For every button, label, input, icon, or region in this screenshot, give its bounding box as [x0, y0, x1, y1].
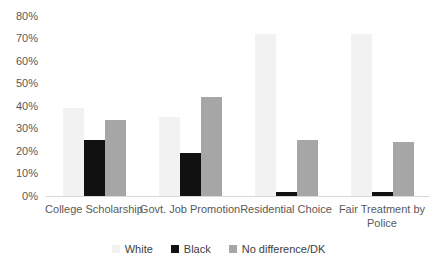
legend-item: White — [112, 243, 153, 255]
y-axis-tick-label: 20% — [0, 145, 38, 158]
legend-item: Black — [171, 243, 211, 255]
legend-label: Black — [184, 243, 211, 255]
legend-item: No difference/DK — [229, 243, 326, 255]
y-axis-tick-label: 80% — [0, 10, 38, 23]
y-axis-tick-label: 0% — [0, 190, 38, 203]
bar-group — [334, 16, 430, 196]
bar-black — [84, 140, 105, 196]
bar-group — [238, 16, 334, 196]
legend-label: White — [125, 243, 153, 255]
bar-group — [142, 16, 238, 196]
y-axis-tick-label: 70% — [0, 32, 38, 45]
y-axis-tick-label: 10% — [0, 167, 38, 180]
bar-no-difference-dk — [393, 142, 414, 196]
bar-white — [255, 34, 276, 196]
bar-no-difference-dk — [105, 120, 126, 197]
bar-no-difference-dk — [297, 140, 318, 196]
bar-black — [180, 153, 201, 196]
bar-black — [372, 192, 393, 197]
bar-white — [63, 108, 84, 196]
x-axis-category-label: Fair Treatment by Police — [330, 202, 434, 230]
plot-area — [46, 16, 430, 196]
bar-white — [159, 117, 180, 196]
x-axis-category-label: Residential Choice — [234, 202, 338, 216]
y-axis-tick-label: 50% — [0, 77, 38, 90]
legend-label: No difference/DK — [242, 243, 326, 255]
y-axis-tick-label: 40% — [0, 100, 38, 113]
chart-legend: WhiteBlackNo difference/DK — [0, 243, 437, 255]
x-axis-category-label: Govt. Job Promotion — [138, 202, 242, 216]
bar-no-difference-dk — [201, 97, 222, 196]
bar-white — [351, 34, 372, 196]
y-axis-tick-label: 60% — [0, 55, 38, 68]
x-axis-line — [46, 196, 430, 197]
bar-group — [46, 16, 142, 196]
bar-chart: 0%10%20%30%40%50%60%70%80% College Schol… — [0, 0, 437, 270]
legend-swatch-icon — [171, 245, 179, 253]
bar-black — [276, 192, 297, 197]
legend-swatch-icon — [112, 245, 120, 253]
legend-swatch-icon — [229, 245, 237, 253]
y-axis-tick-label: 30% — [0, 122, 38, 135]
x-axis-category-label: College Scholarship — [42, 202, 146, 216]
